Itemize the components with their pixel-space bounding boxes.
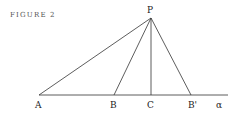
label-C: C bbox=[147, 100, 154, 110]
label-B: B bbox=[110, 100, 117, 110]
geometry-diagram: P A B C B' α bbox=[0, 0, 241, 116]
label-P: P bbox=[147, 5, 153, 15]
label-alpha: α bbox=[216, 100, 222, 110]
label-A: A bbox=[34, 100, 42, 110]
segment-PA bbox=[39, 18, 151, 95]
segment-PBprime bbox=[151, 18, 191, 95]
segment-PB bbox=[114, 18, 151, 95]
label-Bprime: B' bbox=[188, 100, 197, 110]
